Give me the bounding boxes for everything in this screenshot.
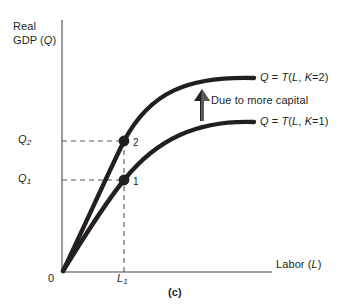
point-1-marker [119, 175, 130, 186]
production-function-figure: Real GDP (Q) Labor (L) 0 L1 Q1 Q2 Q = T(… [0, 0, 342, 307]
curve-label-capital-2: Q = T(L, K=2) [260, 71, 329, 84]
curve2-capital-var: K [305, 71, 312, 83]
curve1-capital-var: K [305, 115, 312, 127]
curve2-output-var: Q [260, 71, 269, 83]
y-tick-q2-subscript: 2 [27, 138, 31, 147]
y-tick-label-q2: Q2 [18, 133, 31, 149]
x-axis-title-close: ) [318, 258, 322, 270]
x-tick-label-l1: L1 [117, 272, 128, 288]
curve-capital-1 [63, 122, 254, 271]
y-tick-label-q1: Q1 [18, 172, 31, 188]
y-tick-q1-subscript: 1 [27, 177, 31, 186]
shift-annotation-text: Due to more capital [211, 94, 308, 107]
y-axis-title-variable: Q [44, 34, 53, 46]
curve2-equals: = [269, 71, 282, 83]
point-1-label: 1 [133, 175, 139, 188]
shift-arrow-icon [194, 89, 210, 121]
point-2-label: 2 [133, 136, 139, 149]
y-axis-title: Real GDP (Q) [13, 19, 56, 47]
curve2-capital-value: =2) [312, 71, 329, 83]
x-axis-title-text: Labor ( [276, 258, 312, 270]
point-2-marker [119, 136, 130, 147]
panel-caption: (c) [168, 286, 182, 299]
curve1-output-var: Q [260, 115, 269, 127]
y-axis-title-close: ) [53, 34, 57, 46]
curve1-capital-value: =1) [312, 115, 329, 127]
curve1-equals: = [269, 115, 282, 127]
curve-label-capital-1: Q = T(L, K=1) [260, 115, 329, 128]
y-axis-title-line1: Real [13, 20, 36, 32]
x-tick-l1-subscript: 1 [123, 277, 127, 286]
origin-label: 0 [48, 272, 54, 285]
y-tick-q2-base: Q [18, 133, 27, 145]
y-tick-q1-base: Q [18, 172, 27, 184]
x-axis-title: Labor (L) [276, 258, 322, 271]
y-axis-title-line2: GDP ( [13, 34, 44, 46]
